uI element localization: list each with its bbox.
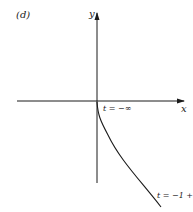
diagram-canvas <box>0 0 193 212</box>
y-axis-label: y <box>89 9 95 19</box>
annotation-t-minus-infinity: t = −∞ <box>103 105 131 113</box>
x-axis-label: x <box>181 104 187 114</box>
parametric-curve <box>97 102 161 207</box>
annotation-t-minus-one-plus: t = −1 + <box>157 192 193 200</box>
panel-label: (d) <box>16 10 30 20</box>
